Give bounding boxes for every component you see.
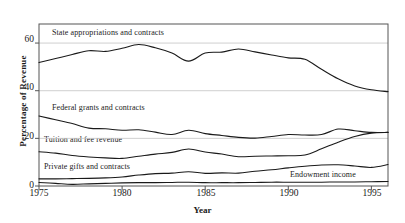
series-line-state-appropriations-and-contracts: [39, 44, 388, 91]
plot-frame: [39, 24, 388, 186]
series-line-federal-grants-and-contracts: [39, 116, 388, 138]
series-line-private-gifts-and-contracts: [39, 165, 388, 179]
chart-figure: Percentage of Revenue Year 60 40 20 0 19…: [0, 0, 405, 223]
series-line-tuition-and-fee-revenue: [39, 132, 388, 158]
series-line-endowment-income: [39, 181, 388, 184]
plot-area: [0, 0, 405, 223]
